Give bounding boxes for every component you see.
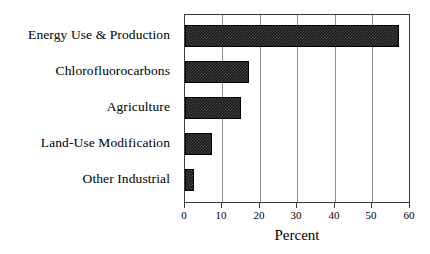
bar-agriculture [185,97,241,119]
x-tick-label-40: 40 [321,209,347,221]
category-label-energy-use-and-production: Energy Use & Production [0,28,170,42]
plot-area [184,14,410,203]
x-tick-mark-50 [371,203,372,208]
bar-other-industrial [185,169,194,191]
x-tick-mark-60 [409,203,410,208]
x-tick-mark-10 [221,203,222,208]
bar-energy-use-and-production [185,25,399,47]
x-tick-label-60: 60 [396,209,422,221]
x-tick-label-50: 50 [358,209,384,221]
x-tick-mark-20 [259,203,260,208]
bars-layer [185,15,409,202]
x-tick-mark-30 [296,203,297,208]
category-label-land-use-modification: Land-Use Modification [0,136,170,150]
x-tick-mark-0 [184,203,185,208]
x-tick-label-30: 30 [283,209,309,221]
category-label-agriculture: Agriculture [0,100,170,114]
x-tick-label-20: 20 [246,209,272,221]
bar-chlorofluorocarbons [185,61,249,83]
category-axis-labels: Energy Use & Production Chlorofluorocarb… [0,14,178,203]
x-tick-mark-40 [334,203,335,208]
x-axis-title: Percent [184,226,410,244]
bar-chart-figure: Energy Use & Production Chlorofluorocarb… [0,0,430,254]
bar-land-use-modification [185,133,212,155]
category-label-other-industrial: Other Industrial [0,172,170,186]
category-label-chlorofluorocarbons: Chlorofluorocarbons [0,64,170,78]
x-tick-label-10: 10 [208,209,234,221]
x-axis: 0 10 20 30 40 50 60 [184,203,410,225]
x-tick-label-0: 0 [171,209,197,221]
